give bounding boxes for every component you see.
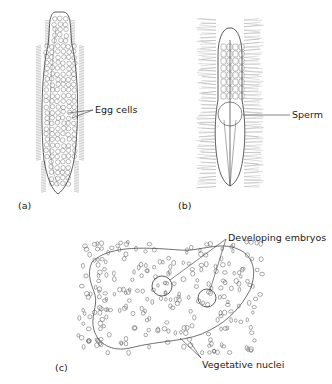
organism-b: [215, 28, 245, 186]
organism-a: [36, 12, 84, 194]
vegetative-nuclei-label: Vegetative nuclei: [202, 359, 284, 370]
panel-label-c: (c): [55, 362, 68, 373]
panel-label-b: (b): [178, 200, 191, 211]
panel-label-a: (a): [18, 200, 31, 211]
egg-cells-label: Egg cells: [95, 104, 137, 115]
developing-embryos-label: Developing embryos: [228, 232, 326, 243]
diagram-canvas: [0, 0, 332, 384]
sperm-label: Sperm: [292, 109, 323, 120]
